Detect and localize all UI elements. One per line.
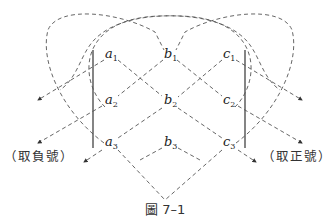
diamond-right-edge [165,150,222,200]
entry-c2: c2 [223,92,235,109]
matrix-entries: a1 b1 c1 a2 b2 c2 a3 b3 c3 [105,46,235,151]
pos-diagonal-c1 [236,60,302,100]
negative-sign-label: （取負號） [4,149,74,164]
pos-curve-inner [46,14,164,143]
neg-diagonal-a1 [38,60,104,100]
entry-a1: a1 [105,46,118,63]
figure-caption: 圖 7–1 [145,202,185,217]
sarrus-rule-diagram: a1 b1 c1 a2 b2 c2 a3 b3 c3 （取負號） （取正號） 圖… [0,0,332,217]
entry-a2: a2 [105,92,118,109]
neg-curve-inner [176,14,294,143]
entry-b1: b1 [164,46,177,63]
entry-b2: b2 [164,92,177,109]
bottom-diamond [118,148,222,200]
diamond-inner-right [178,148,200,160]
positive-diagonals [46,14,302,162]
diamond-inner-left [140,148,162,160]
entry-c1: c1 [223,46,235,63]
diamond-left-edge [118,150,165,200]
positive-sign-label: （取正號） [262,149,332,164]
entry-a3: a3 [105,134,118,151]
entry-b3: b3 [164,134,177,151]
entry-c3: c3 [223,134,235,151]
